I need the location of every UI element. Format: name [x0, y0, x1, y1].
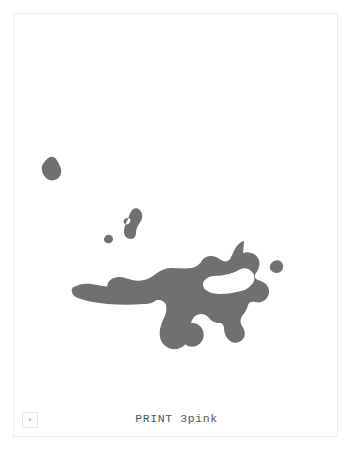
page-sheet [13, 13, 338, 437]
print-caption: PRINT 3pink [0, 412, 353, 425]
